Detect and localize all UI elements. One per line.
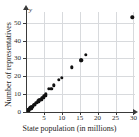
ytick-10	[23, 94, 26, 95]
plot-area	[26, 12, 135, 112]
xtick-label-20: 20	[94, 115, 101, 122]
ytick-0	[23, 112, 26, 113]
gridline-x-30	[133, 12, 134, 112]
gridline-x-20	[98, 12, 99, 112]
x-axis-title: State population (in millions)	[0, 124, 139, 133]
data-point	[80, 59, 83, 62]
gridline-y-20	[26, 76, 135, 77]
gridline-y-50	[26, 23, 135, 24]
ytick-20	[23, 76, 26, 77]
ytick-50	[23, 23, 26, 24]
y-axis-title: Number of representatives	[4, 5, 13, 125]
scatter-plot-figure: 5 10 15 20 25 30 0 10 20 30 40 50 y Stat…	[0, 0, 139, 137]
data-point	[52, 84, 55, 87]
ytick-30	[23, 58, 26, 59]
gridline-x-10	[62, 12, 63, 112]
data-point	[50, 87, 53, 90]
xtick-label-10: 10	[58, 115, 65, 122]
gridline-x-15	[80, 12, 81, 112]
y-axis-line	[26, 10, 27, 113]
xtick-label-25: 25	[112, 115, 119, 122]
data-point	[70, 66, 73, 69]
gridline-x-25	[116, 12, 117, 112]
xtick-label-5: 5	[42, 115, 46, 122]
ytick-40	[23, 41, 26, 42]
xtick-label-30: 30	[130, 115, 137, 122]
y-axis-variable-label: y	[29, 6, 32, 14]
gridline-y-40	[26, 41, 135, 42]
data-point	[84, 53, 87, 56]
data-point	[44, 92, 47, 95]
xtick-label-15: 15	[76, 115, 83, 122]
